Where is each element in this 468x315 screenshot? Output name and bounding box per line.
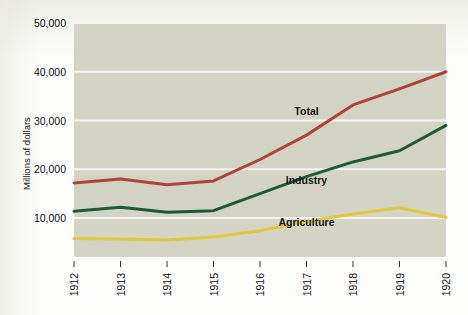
chart-figure: 10,00020,00030,00040,00050,000 Millions … xyxy=(0,0,468,315)
y-axis-tick-labels: 10,00020,00030,00040,00050,000 xyxy=(34,17,66,224)
x-axis-tick-label: 1912 xyxy=(68,273,80,297)
x-axis-tick-labels: 191219131914191519161917191819191920 xyxy=(68,273,452,297)
x-axis-tick-label: 1918 xyxy=(347,273,359,297)
plot-area-background xyxy=(74,23,446,257)
series-label-agriculture: Agriculture xyxy=(278,216,334,228)
y-axis-tick-label: 10,000 xyxy=(34,212,66,224)
x-axis-tick-label: 1913 xyxy=(115,273,127,297)
y-axis-title: Millions of dollars xyxy=(21,117,32,190)
line-chart: 10,00020,00030,00040,00050,000 Millions … xyxy=(0,0,468,315)
x-axis-tick-label: 1914 xyxy=(161,273,173,297)
x-axis-tick-marks xyxy=(74,261,446,267)
x-axis-tick-label: 1917 xyxy=(301,273,313,297)
y-axis-tick-label: 20,000 xyxy=(34,163,66,175)
y-axis-tick-label: 40,000 xyxy=(34,66,66,78)
x-axis-tick-label: 1920 xyxy=(440,273,452,297)
series-label-industry: Industry xyxy=(286,174,328,186)
y-axis-tick-label: 50,000 xyxy=(34,17,66,29)
x-axis-tick-label: 1915 xyxy=(208,273,220,297)
x-axis-tick-label: 1919 xyxy=(394,273,406,297)
x-axis-tick-label: 1916 xyxy=(254,273,266,297)
series-label-total: Total xyxy=(294,105,318,117)
y-axis-tick-label: 30,000 xyxy=(34,115,66,127)
